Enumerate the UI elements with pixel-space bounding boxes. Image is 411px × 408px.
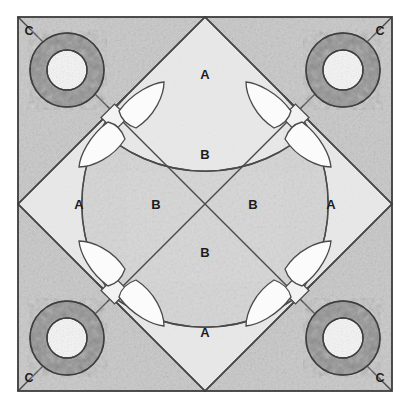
label-c-bottom-left: C — [24, 371, 33, 385]
label-a-left: A — [74, 197, 84, 212]
label-c-top-left: C — [24, 24, 33, 38]
label-b-right: B — [248, 197, 257, 212]
label-a-top: A — [200, 67, 210, 82]
label-b-top: B — [200, 147, 209, 162]
label-c-bottom-right: C — [375, 371, 384, 385]
label-b-bottom: B — [200, 245, 209, 260]
quilt-diagram-stage: A A A A B B B B C C C C — [0, 0, 411, 408]
label-a-bottom: A — [200, 325, 210, 340]
quilt-block-diagram: A A A A B B B B C C C C — [0, 0, 411, 408]
label-c-top-right: C — [375, 24, 384, 38]
label-a-right: A — [326, 197, 336, 212]
label-b-left: B — [151, 197, 160, 212]
